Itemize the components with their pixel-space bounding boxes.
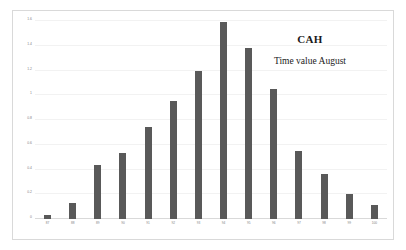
bar-slot: 87 — [35, 21, 60, 219]
bar-slot: 94 — [211, 21, 236, 219]
bar-slot: 91 — [136, 21, 161, 219]
x-axis-tick-label: 100 — [372, 222, 377, 225]
x-axis-tick-label: 93 — [197, 222, 201, 225]
x-axis-tick-label: 99 — [347, 222, 351, 225]
bar[interactable] — [270, 89, 277, 219]
x-axis-tick-label: 90 — [121, 222, 125, 225]
bar-slot: 89 — [85, 21, 110, 219]
bar[interactable] — [170, 101, 177, 219]
bar[interactable] — [145, 127, 152, 219]
bar[interactable] — [245, 48, 252, 219]
y-axis-tick-label: 0.4 — [27, 167, 32, 170]
x-axis-tick-label: 92 — [171, 222, 175, 225]
y-axis-tick-label: 1.2 — [27, 68, 32, 71]
y-axis-tick-label: 0.8 — [27, 117, 32, 120]
y-axis-tick-label: 1 — [30, 93, 32, 96]
chart-subtitle: Time value August — [245, 56, 375, 66]
bar[interactable] — [195, 71, 202, 220]
bar[interactable] — [295, 151, 302, 219]
bar-slot: 92 — [161, 21, 186, 219]
x-axis-tick-label: 91 — [146, 222, 150, 225]
x-axis-tick-label: 98 — [322, 222, 326, 225]
x-axis-tick-label: 89 — [96, 222, 100, 225]
bar[interactable] — [346, 194, 353, 219]
bar[interactable] — [44, 215, 51, 219]
bar[interactable] — [94, 165, 101, 219]
x-axis-tick-label: 95 — [247, 222, 251, 225]
x-axis-tick-label: 94 — [222, 222, 226, 225]
bar[interactable] — [220, 22, 227, 219]
y-axis-tick-label: 0 — [30, 216, 32, 219]
bar-slot: 88 — [60, 21, 85, 219]
bar[interactable] — [119, 153, 126, 219]
bar[interactable] — [321, 174, 328, 219]
x-axis-tick-label: 97 — [297, 222, 301, 225]
page-title: CAH — [245, 33, 375, 45]
y-axis-tick-label: 1.4 — [27, 43, 32, 46]
bar-slot: 90 — [110, 21, 135, 219]
y-axis-tick-label: 1.6 — [27, 18, 32, 21]
bar[interactable] — [371, 205, 378, 219]
chart-frame: 00.20.40.60.811.21.41.6 8788899091929394… — [12, 10, 394, 240]
y-axis-tick-label: 0.2 — [27, 192, 32, 195]
x-axis-tick-label: 96 — [272, 222, 276, 225]
y-axis-tick-label: 0.6 — [27, 142, 32, 145]
chart-title-block: CAH Time value August — [245, 33, 375, 66]
x-axis-tick-label: 88 — [71, 222, 75, 225]
x-axis-tick-label: 87 — [46, 222, 50, 225]
bar[interactable] — [69, 203, 76, 219]
bar-slot: 93 — [186, 21, 211, 219]
